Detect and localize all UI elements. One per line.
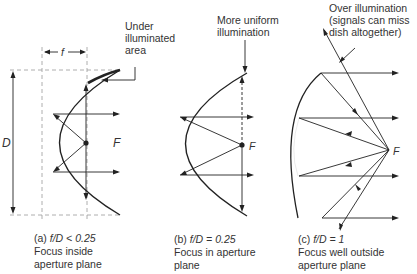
annotation-more-uniform-1: More uniform	[217, 14, 279, 26]
annotation-over-illumination-3: dish altogether)	[329, 26, 401, 38]
caption-b-line2: Focus in aperture	[174, 246, 256, 259]
caption-a-line3: aperture plane	[34, 258, 102, 271]
panel-a-drawing	[10, 47, 135, 222]
focus-label-c: F	[393, 145, 399, 157]
annotation-under-illuminated-2: illuminated	[125, 32, 175, 44]
annotation-more-uniform-2: illumination	[217, 26, 270, 38]
panel-c-drawing	[291, 28, 399, 231]
focus-label-b: F	[249, 140, 255, 152]
caption-b-ratio: f/D = 0.25	[190, 233, 236, 245]
caption-a-line1: (a) f/D < 0.25	[34, 232, 96, 245]
caption-b-line3: plane	[174, 259, 200, 272]
focus-label-a: F	[113, 137, 120, 149]
caption-c-line2: Focus well outside	[298, 246, 384, 259]
caption-b-line1: (b) f/D = 0.25	[174, 233, 236, 246]
caption-b-tag: (b)	[174, 233, 187, 245]
annotation-over-illumination-2: (signals can miss	[329, 14, 410, 26]
annotation-under-illuminated-1: Under	[125, 20, 154, 32]
caption-c-line1: (c) f/D = 1	[298, 233, 344, 246]
caption-a-ratio: f/D < 0.25	[50, 232, 96, 244]
panel-b-drawing	[180, 40, 254, 216]
caption-a-tag: (a)	[34, 232, 47, 244]
caption-c-line3: aperture plane	[298, 259, 366, 272]
annotation-over-illumination-1: Over illumination	[329, 2, 407, 14]
annotation-under-illuminated-3: area	[125, 44, 146, 56]
caption-c-tag: (c)	[298, 233, 310, 245]
diameter-label: D	[2, 137, 11, 149]
caption-c-ratio: f/D = 1	[313, 233, 344, 245]
caption-a-line2: Focus inside	[34, 245, 93, 258]
focal-length-label: f	[61, 46, 64, 58]
